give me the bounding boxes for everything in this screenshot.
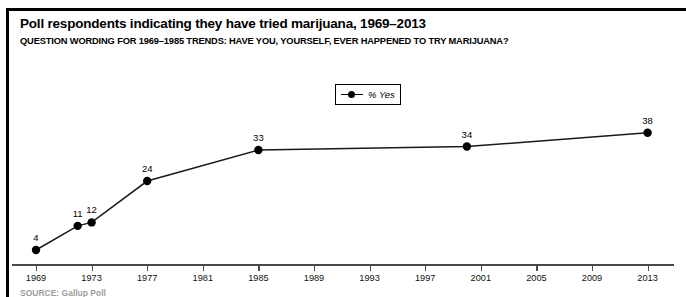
x-axis-tick-label: 2013 [637, 273, 657, 283]
data-point-label: 24 [142, 163, 153, 174]
x-axis-tick [203, 264, 204, 271]
chart-figure: Poll respondents indicating they have tr… [0, 0, 686, 297]
legend-label: % Yes [368, 89, 395, 100]
frame-border-top [6, 8, 686, 11]
x-axis-tick [592, 264, 593, 271]
data-point-label: 11 [73, 208, 83, 219]
chart-legend: % Yes [335, 84, 401, 105]
data-point-label: 4 [33, 232, 38, 243]
x-axis-tick [258, 264, 259, 271]
frame-border-left [6, 8, 9, 297]
x-axis-tick [370, 264, 371, 271]
data-point-marker [254, 146, 262, 154]
x-axis-tick-label: 1997 [415, 273, 435, 283]
x-axis-line [12, 264, 674, 266]
chart-subtitle: QUESTION WORDING FOR 1969–1985 TRENDS: H… [20, 36, 508, 46]
data-point-label: 12 [86, 204, 97, 215]
data-point-marker [87, 218, 95, 226]
data-point-marker [143, 177, 151, 185]
data-point-marker [74, 222, 82, 230]
chart-title: Poll respondents indicating they have tr… [20, 16, 426, 31]
x-axis-tick [314, 264, 315, 271]
x-axis-tick [147, 264, 148, 271]
x-axis-tick-label: 1973 [81, 273, 101, 283]
data-point-marker [32, 246, 40, 254]
legend-entry: % Yes [336, 85, 400, 104]
x-axis-tick-label: 1989 [304, 273, 324, 283]
x-axis-tick [481, 264, 482, 271]
x-axis-tick-label: 1977 [137, 273, 157, 283]
data-point-label: 34 [462, 129, 473, 140]
x-axis-tick [425, 264, 426, 271]
data-point-label: 33 [253, 132, 264, 143]
x-axis-tick-label: 1985 [248, 273, 268, 283]
x-axis-tick [92, 264, 93, 271]
x-axis-tick-label: 1993 [359, 273, 379, 283]
x-axis-tick-label: 1981 [193, 273, 213, 283]
x-axis-tick [648, 264, 649, 271]
data-point-marker [463, 142, 471, 150]
x-axis-tick [536, 264, 537, 271]
x-axis-tick-label: 2009 [582, 273, 602, 283]
x-axis-tick-label: 2001 [471, 273, 491, 283]
source-note: SOURCE: Gallup Poll [20, 289, 310, 297]
source-note-text: SOURCE: Gallup Poll [20, 289, 310, 297]
data-point-marker [643, 129, 651, 137]
data-point-label: 38 [642, 115, 653, 126]
x-axis-tick-label: 1969 [26, 273, 46, 283]
x-axis-tick-label: 2005 [526, 273, 546, 283]
series-line [36, 133, 648, 250]
x-axis-tick [36, 264, 37, 271]
line-dot-marker-icon [341, 90, 363, 99]
